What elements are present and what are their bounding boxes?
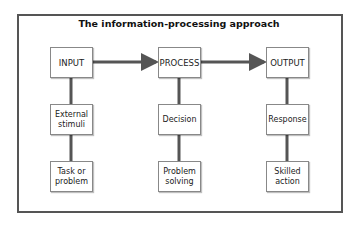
decision-box: Decision — [158, 104, 201, 135]
external-stimuli-box: External stimuli — [50, 104, 93, 135]
output-box: OUTPUT — [266, 47, 309, 78]
task-or-problem-box: Task or problem — [50, 161, 93, 192]
process-box: PROCESS — [158, 47, 201, 78]
input-box: INPUT — [50, 47, 93, 78]
skilled-action-box: Skilled action — [266, 161, 309, 192]
problem-solving-box: Problem solving — [158, 161, 201, 192]
response-box: Response — [266, 104, 309, 135]
